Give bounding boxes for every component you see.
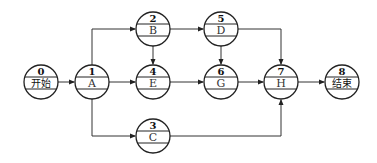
node-3: 3C xyxy=(136,119,170,153)
edge-1-3 xyxy=(92,99,135,136)
node-2: 2B xyxy=(136,12,170,46)
node-label: E xyxy=(149,77,157,90)
node-number: 3 xyxy=(150,120,157,131)
node-label: H xyxy=(276,77,286,90)
node-7: 7H xyxy=(264,65,298,99)
node-5: 5D xyxy=(204,12,238,46)
node-label: D xyxy=(217,24,226,37)
node-number: 6 xyxy=(218,66,225,77)
node-label: 开始 xyxy=(31,77,51,89)
node-number: 1 xyxy=(89,66,96,77)
node-number: 7 xyxy=(278,66,285,77)
node-label: G xyxy=(217,77,226,90)
network-diagram: 0开始1A2B4E3C5D6G7H8结束 xyxy=(0,0,377,163)
node-label: B xyxy=(149,24,157,37)
node-number: 4 xyxy=(150,66,157,77)
node-number: 8 xyxy=(339,66,346,77)
node-8: 8结束 xyxy=(325,65,359,99)
node-number: 5 xyxy=(218,13,225,24)
node-label: A xyxy=(87,77,97,90)
node-label: C xyxy=(149,131,157,144)
node-0: 0开始 xyxy=(24,65,58,99)
node-1: 1A xyxy=(75,65,109,99)
node-number: 2 xyxy=(150,13,157,24)
node-number: 0 xyxy=(38,66,45,77)
edge-5-7 xyxy=(238,29,281,64)
node-4: 4E xyxy=(136,65,170,99)
edge-3-7 xyxy=(170,100,281,136)
node-label: 结束 xyxy=(332,77,352,89)
edge-1-2 xyxy=(92,29,135,65)
node-6: 6G xyxy=(204,65,238,99)
